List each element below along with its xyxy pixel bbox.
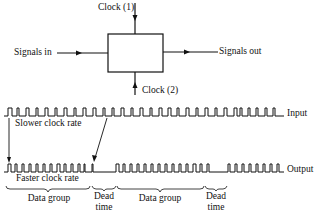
signals-in-label: Signals in <box>14 48 52 58</box>
faster-clock-label: Faster clock rate <box>16 174 79 184</box>
first-bit-mapping-arrow <box>7 118 11 163</box>
dead-time-1-label: Dead time <box>90 191 118 213</box>
output-pulse-train <box>4 164 284 172</box>
clock1-label: Clock (1) <box>98 3 134 13</box>
output-trace-label: Output <box>287 165 313 175</box>
diagram-canvas <box>0 0 320 220</box>
data-group-2-label: Data group <box>135 193 185 204</box>
last-bit-mapping-arrow <box>92 118 107 162</box>
brace-data-group-1 <box>6 186 90 192</box>
signals-out-arrow <box>163 50 218 55</box>
signals-in-arrow <box>57 51 108 56</box>
input-pulse-train <box>4 108 284 116</box>
data-group-1-label: Data group <box>24 193 74 204</box>
clock2-arrow <box>133 72 138 95</box>
brace-data-group-2 <box>117 186 204 192</box>
slower-clock-label: Slower clock rate <box>15 119 81 129</box>
clock2-label: Clock (2) <box>142 86 178 96</box>
signals-out-label: Signals out <box>219 47 262 57</box>
dead-time-2-label: Dead time <box>202 191 230 213</box>
input-trace-label: Input <box>287 109 307 119</box>
processing-block <box>108 34 163 72</box>
